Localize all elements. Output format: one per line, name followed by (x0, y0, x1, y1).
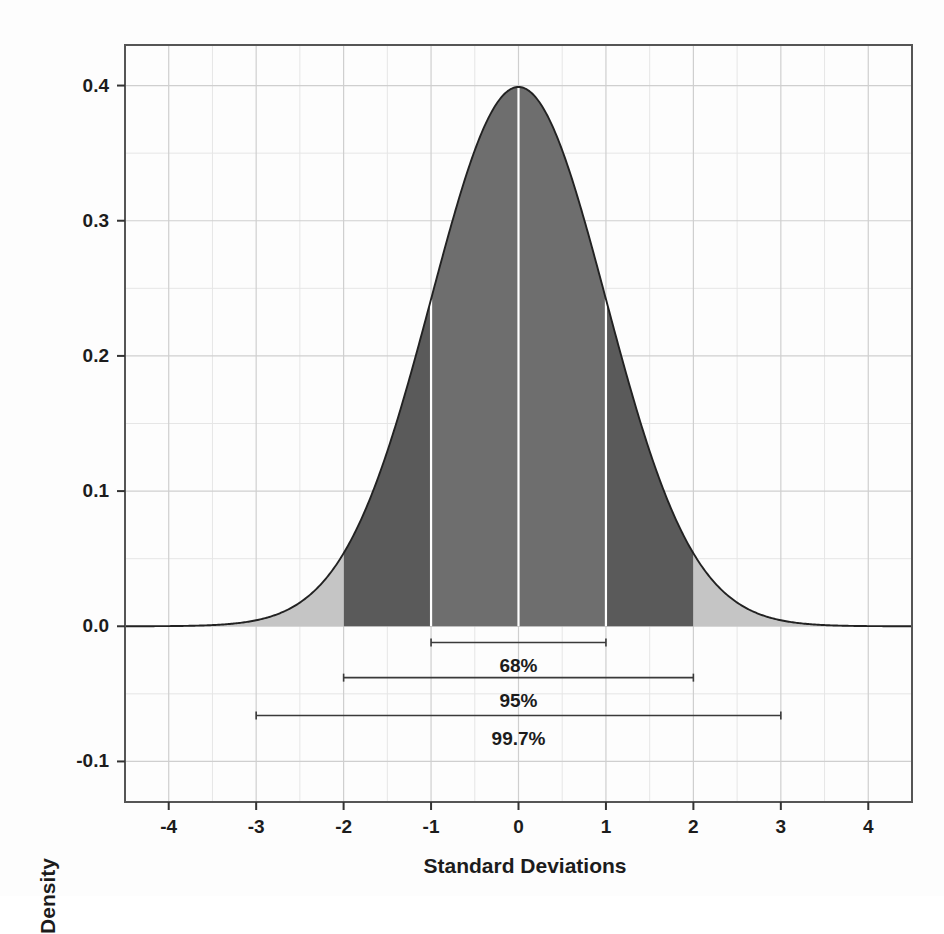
area-beyond-two-sd-left (125, 553, 344, 626)
x-tick-label: 3 (776, 816, 787, 838)
x-tick-label: -2 (335, 816, 352, 838)
annotation-bracket-68-label: 68% (499, 655, 537, 677)
annotation-bracket-997-label: 99.7% (492, 728, 546, 750)
y-tick-label: 0.1 (83, 480, 109, 502)
y-tick-label: 0.0 (83, 615, 109, 637)
x-tick-label: 2 (688, 816, 699, 838)
area-beyond-two-sd-right (693, 553, 912, 626)
x-axis-label: Standard Deviations (423, 854, 626, 878)
x-tick-label: -4 (160, 816, 177, 838)
y-axis-label: Density (36, 858, 60, 934)
y-tick-label: -0.1 (76, 750, 109, 772)
annotation-bracket-95-label: 95% (499, 690, 537, 712)
y-tick-label: 0.4 (83, 75, 109, 97)
y-tick-label: 0.3 (83, 210, 109, 232)
x-tick-label: -3 (248, 816, 265, 838)
y-tick-label: 0.2 (83, 345, 109, 367)
x-tick-label: -1 (423, 816, 440, 838)
y-axis-label-wrap: Density (38, 448, 39, 449)
x-tick-label: 0 (513, 816, 524, 838)
x-tick-label: 4 (863, 816, 874, 838)
x-tick-label: 1 (601, 816, 612, 838)
